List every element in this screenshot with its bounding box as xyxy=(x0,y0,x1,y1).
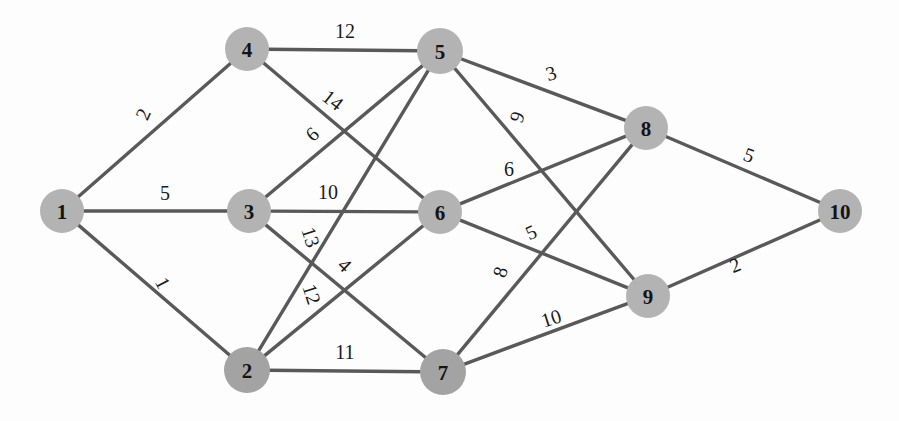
graph-node-2[interactable]: 2 xyxy=(224,347,270,393)
edge-weight-label: 6 xyxy=(301,122,323,145)
node-label: 5 xyxy=(435,40,446,64)
graph-edge xyxy=(267,370,423,372)
edge-weight-label: 12 xyxy=(298,281,325,307)
edge-weight-label: 5 xyxy=(522,220,540,244)
edge-weight-label: 11 xyxy=(335,341,354,363)
edge-weight-label: 4 xyxy=(334,254,356,277)
graph-node-8[interactable]: 8 xyxy=(624,106,668,150)
graph-edge xyxy=(266,49,420,51)
graph-node-3[interactable]: 3 xyxy=(227,189,271,233)
graph-node-7[interactable]: 7 xyxy=(420,349,466,395)
graph-node-1[interactable]: 1 xyxy=(40,189,84,233)
node-label: 9 xyxy=(643,285,654,309)
graph-edge xyxy=(76,62,232,199)
edge-weight-label: 10 xyxy=(318,181,338,203)
node-label: 2 xyxy=(242,359,253,383)
graph-canvas: 12345678910 25112146101312411396581052 xyxy=(0,0,899,421)
graph-edge xyxy=(76,223,231,357)
edge-weight-label: 3 xyxy=(543,61,559,85)
node-label: 4 xyxy=(242,38,253,62)
edge-weight-label: 1 xyxy=(151,273,175,292)
graph-edge xyxy=(458,219,631,289)
node-label: 7 xyxy=(438,361,449,385)
graph-node-6[interactable]: 6 xyxy=(418,190,462,234)
graph-edge xyxy=(663,135,822,203)
edge-weight-label: 6 xyxy=(504,158,514,180)
edge-weight-label: 5 xyxy=(160,182,170,204)
graph-node-5[interactable]: 5 xyxy=(417,28,463,74)
edge-weight-label: 12 xyxy=(335,20,355,42)
graph-svg: 12345678910 25112146101312411396581052 xyxy=(0,0,899,421)
graph-edge xyxy=(665,219,822,289)
graph-node-9[interactable]: 9 xyxy=(626,274,670,318)
node-label: 8 xyxy=(641,117,652,141)
graph-node-4[interactable]: 4 xyxy=(225,27,269,71)
graph-node-10[interactable]: 10 xyxy=(818,189,862,233)
node-label: 6 xyxy=(435,201,446,225)
edge-weight-label: 8 xyxy=(488,264,512,280)
edge-weight-label: 5 xyxy=(741,143,758,167)
node-label: 10 xyxy=(830,200,851,224)
edge-weight-label: 14 xyxy=(318,85,347,115)
node-label: 1 xyxy=(57,200,68,224)
edge-weight-label: 2 xyxy=(131,105,155,123)
edge-weight-label: 9 xyxy=(505,109,529,126)
graph-edge xyxy=(458,135,629,205)
node-label: 3 xyxy=(244,200,255,224)
